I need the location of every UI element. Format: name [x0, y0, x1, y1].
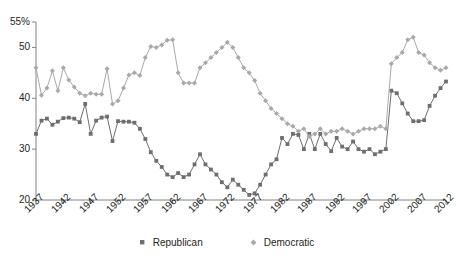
- data-point-marker: [351, 131, 356, 136]
- data-point-marker: [416, 50, 421, 55]
- series-democratic: [34, 35, 449, 139]
- data-point-marker: [187, 173, 191, 177]
- data-point-marker: [372, 126, 377, 131]
- data-point-marker: [204, 163, 208, 167]
- data-point-marker: [40, 119, 44, 123]
- data-point-marker: [116, 98, 121, 103]
- series-republican: [34, 80, 448, 197]
- data-point-marker: [100, 116, 104, 120]
- series-line: [36, 82, 446, 195]
- data-point-marker: [225, 185, 229, 189]
- data-point-marker: [72, 117, 76, 121]
- data-point-marker: [384, 147, 388, 151]
- data-point-marker: [89, 132, 93, 136]
- data-point-marker: [417, 119, 421, 123]
- data-point-marker: [171, 175, 175, 179]
- data-point-marker: [242, 188, 246, 192]
- data-point-marker: [231, 178, 235, 182]
- chart-legend: RepublicanDemocratic: [0, 232, 452, 252]
- data-point-marker: [400, 101, 404, 105]
- data-point-marker: [313, 147, 317, 151]
- data-point-marker: [110, 101, 115, 106]
- y-axis-tick-label: 55%: [0, 16, 30, 27]
- data-point-marker: [148, 44, 153, 49]
- data-point-marker: [170, 37, 175, 42]
- data-point-marker: [88, 91, 93, 96]
- data-point-marker: [329, 149, 333, 153]
- data-point-marker: [428, 104, 432, 108]
- data-point-marker: [61, 116, 65, 120]
- data-point-marker: [181, 81, 186, 86]
- data-point-marker: [379, 150, 383, 154]
- data-point-marker: [83, 93, 88, 98]
- data-point-marker: [83, 102, 87, 106]
- legend-item-republican[interactable]: Republican: [138, 237, 203, 248]
- data-point-marker: [329, 129, 334, 134]
- data-point-marker: [405, 37, 410, 42]
- data-point-marker: [269, 163, 273, 167]
- data-point-marker: [340, 126, 345, 131]
- data-point-marker: [362, 126, 367, 131]
- data-point-marker: [373, 152, 377, 156]
- data-point-marker: [50, 68, 55, 73]
- data-point-marker: [215, 173, 219, 177]
- data-point-marker: [34, 65, 39, 70]
- data-point-marker: [67, 116, 71, 120]
- y-axis-tick-label: 30: [0, 143, 30, 154]
- data-point-marker: [340, 145, 344, 149]
- data-point-marker: [121, 86, 126, 91]
- data-point-marker: [291, 132, 295, 136]
- data-point-marker: [165, 173, 169, 177]
- data-point-marker: [302, 147, 306, 151]
- data-point-marker: [45, 117, 49, 121]
- data-point-marker: [335, 136, 339, 140]
- data-point-marker: [55, 88, 60, 93]
- data-point-marker: [78, 120, 82, 124]
- data-point-marker: [406, 112, 410, 116]
- data-point-marker: [236, 55, 241, 60]
- data-point-marker: [133, 121, 137, 125]
- data-point-marker: [99, 92, 104, 97]
- data-point-marker: [149, 150, 153, 154]
- square-marker-icon: [138, 238, 147, 247]
- data-point-marker: [143, 55, 148, 60]
- data-point-marker: [138, 127, 142, 131]
- data-point-marker: [187, 81, 192, 86]
- legend-item-democratic[interactable]: Democratic: [249, 237, 315, 248]
- data-point-marker: [111, 139, 115, 143]
- data-point-marker: [105, 115, 109, 119]
- data-point-marker: [51, 123, 55, 127]
- y-axis-tick-label: 50: [0, 41, 30, 52]
- data-point-marker: [334, 129, 339, 134]
- data-point-marker: [61, 65, 66, 70]
- data-point-marker: [122, 120, 126, 124]
- data-point-marker: [345, 129, 350, 134]
- data-point-marker: [422, 118, 426, 122]
- data-point-marker: [368, 147, 372, 151]
- data-point-marker: [105, 66, 110, 71]
- data-point-marker: [324, 142, 328, 146]
- data-point-marker: [176, 70, 181, 75]
- data-point-marker: [318, 132, 322, 136]
- data-point-marker: [126, 72, 131, 77]
- data-point-marker: [444, 65, 449, 70]
- data-point-marker: [132, 70, 137, 75]
- data-point-marker: [34, 132, 38, 136]
- diamond-marker-icon: [249, 238, 258, 247]
- data-point-marker: [56, 120, 60, 124]
- data-point-marker: [160, 165, 164, 169]
- data-point-marker: [94, 119, 98, 123]
- data-point-marker: [143, 137, 147, 141]
- data-point-marker: [439, 86, 443, 90]
- data-point-marker: [433, 94, 437, 98]
- data-point-marker: [280, 136, 284, 140]
- data-point-marker: [275, 157, 279, 161]
- data-point-marker: [116, 119, 120, 123]
- data-point-marker: [346, 147, 350, 151]
- data-point-marker: [137, 73, 142, 78]
- data-point-marker: [367, 126, 372, 131]
- data-point-marker: [395, 91, 399, 95]
- data-point-marker: [438, 68, 443, 73]
